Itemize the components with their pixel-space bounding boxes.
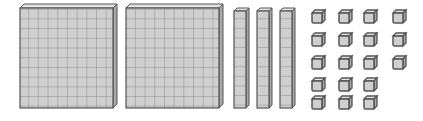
ten-rod-2 (257, 8, 272, 108)
unit-cube (312, 33, 325, 46)
unit-cube (364, 33, 377, 46)
unit-cube (312, 78, 325, 91)
unit-cube (393, 56, 406, 69)
unit-cube (339, 56, 352, 69)
hundred-flat-2 (126, 4, 223, 108)
ones-cubes (312, 10, 406, 109)
unit-cube (393, 10, 406, 23)
unit-cube (339, 33, 352, 46)
unit-cube (364, 78, 377, 91)
unit-cube (312, 56, 325, 69)
unit-cube (364, 10, 377, 23)
hundred-flat-1 (20, 4, 117, 108)
unit-cube (312, 96, 325, 109)
unit-cube (312, 10, 325, 23)
base-ten-diagram (0, 0, 423, 121)
unit-cube (339, 96, 352, 109)
unit-cube (339, 78, 352, 91)
unit-cube (393, 33, 406, 46)
unit-cube (364, 56, 377, 69)
ten-rod-3 (280, 8, 295, 108)
unit-cube (339, 10, 352, 23)
unit-cube (364, 96, 377, 109)
ten-rod-1 (234, 8, 249, 108)
